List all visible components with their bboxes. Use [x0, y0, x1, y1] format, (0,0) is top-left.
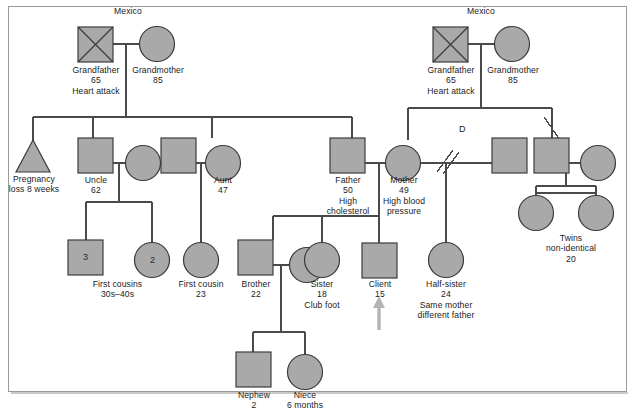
label-country-right: Mexico — [421, 6, 541, 16]
person-mother-expartner[interactable] — [492, 138, 527, 173]
genogram-canvas: Mexico Mexico D Grandfather 65 Heart att… — [0, 0, 635, 412]
person-father[interactable] — [330, 138, 365, 173]
label-twins: Twins non-identical 20 — [523, 233, 619, 264]
label-sister: Sister 18 Club foot — [288, 279, 356, 310]
person-uncle-partner[interactable] — [126, 146, 161, 181]
person-uncle[interactable] — [78, 138, 113, 173]
person-maternal-grandmother[interactable] — [495, 27, 530, 62]
person-half-sister[interactable] — [429, 243, 464, 278]
label-maternal-grandmother: Grandmother 85 — [469, 65, 557, 86]
person-first-cousin[interactable] — [184, 243, 219, 278]
label-aunt: Aunt 47 — [190, 175, 256, 196]
person-sister[interactable] — [305, 243, 340, 278]
count-first-cousins-male: 3 — [68, 253, 103, 262]
label-country-left: Mexico — [68, 6, 188, 16]
label-brother: Brother 22 — [222, 279, 290, 300]
label-uncle: Uncle 62 — [63, 175, 129, 196]
person-paternal-grandmother[interactable] — [140, 27, 175, 62]
person-nephew[interactable] — [236, 352, 271, 387]
count-first-cousins-female: 2 — [135, 256, 170, 265]
person-uncle-right[interactable] — [534, 138, 569, 173]
label-half-sister: Half-sister 24 Same mother different fat… — [398, 279, 494, 320]
person-twin-two[interactable] — [579, 196, 614, 231]
client-arrow-icon — [373, 296, 385, 330]
person-client[interactable] — [362, 243, 397, 278]
label-paternal-grandmother: Grandmother 85 — [114, 65, 202, 86]
label-mother: Mother 49 High blood pressure — [369, 175, 439, 216]
person-pregnancy-loss[interactable] — [16, 140, 50, 172]
label-divorce-marker: D — [459, 124, 466, 134]
person-aunt-partner[interactable] — [161, 138, 196, 173]
label-niece: Niece 6 months — [270, 390, 340, 411]
person-twin-one[interactable] — [519, 196, 554, 231]
person-uncle-right-partner[interactable] — [581, 146, 616, 181]
person-niece[interactable] — [288, 355, 323, 390]
person-brother[interactable] — [238, 240, 273, 275]
